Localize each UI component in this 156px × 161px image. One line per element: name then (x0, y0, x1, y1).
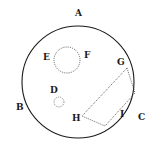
dotted-quadrilateral-ghi (82, 68, 135, 126)
dotted-circle-d (54, 97, 64, 107)
label-f: F (84, 50, 91, 60)
label-i: I (120, 109, 124, 119)
label-c: C (138, 112, 145, 122)
label-a: A (74, 8, 83, 18)
label-d: D (50, 85, 58, 95)
dotted-circle-ef (54, 47, 80, 73)
label-h: H (72, 113, 81, 123)
label-e: E (43, 52, 50, 62)
geometric-diagram: A B C D E F G H I (0, 0, 156, 161)
label-b: B (16, 102, 24, 112)
label-g: G (117, 57, 125, 67)
